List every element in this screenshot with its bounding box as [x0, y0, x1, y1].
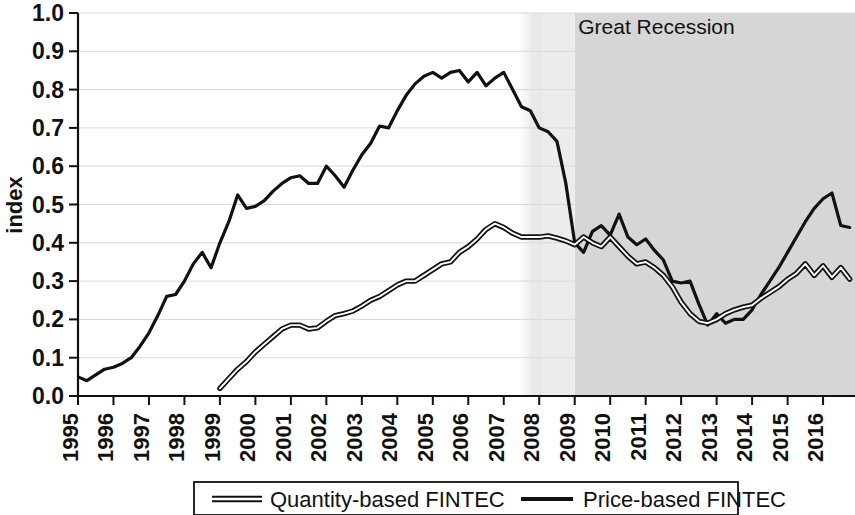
x-axis-tick-label: 2001 — [271, 413, 296, 462]
y-axis-tick-label: 0.6 — [32, 153, 64, 179]
y-axis-tick-label: 0.5 — [32, 192, 64, 218]
x-axis-tick-label: 2015 — [768, 413, 793, 462]
great-recession-annotation-label: Great Recession — [578, 15, 734, 38]
x-axis-tick-label: 1997 — [129, 413, 154, 462]
y-axis-tick-label: 0.2 — [32, 306, 64, 332]
x-axis-tick-label: 2004 — [377, 412, 402, 462]
x-axis-tick-label: 1996 — [93, 413, 118, 462]
legend-label-quantity-based-fintec: Quantity-based FINTEC — [270, 487, 505, 512]
x-axis-tick-label: 2003 — [342, 413, 367, 462]
x-axis-tick-label: 1998 — [164, 413, 189, 462]
x-axis-tick-label: 2012 — [661, 413, 686, 462]
chart-container: 0.00.10.20.30.40.50.60.70.80.91.0 199519… — [0, 0, 855, 515]
y-axis-tick-label: 0.9 — [32, 38, 64, 64]
legend-label-price-based-fintec: Price-based FINTEC — [583, 487, 786, 512]
x-axis-tick-label: 2010 — [590, 413, 615, 462]
x-axis-tick-label: 2016 — [803, 413, 828, 462]
chart-legend: Quantity-based FINTEC Price-based FINTEC — [194, 482, 786, 515]
y-axis-tick-label: 0.8 — [32, 77, 64, 103]
x-axis-tick-label: 2000 — [235, 413, 260, 462]
y-axis-tick-label: 1.0 — [32, 0, 64, 26]
y-axis-tick-label: 0.1 — [32, 345, 64, 371]
x-axis-tick-label: 1999 — [200, 413, 225, 462]
x-axis-tick-label: 1995 — [58, 413, 83, 462]
x-axis-tick-label: 2013 — [697, 413, 722, 462]
x-axis-tick-label: 2008 — [519, 413, 544, 462]
y-axis-tick-label: 0.3 — [32, 268, 64, 294]
y-axis-tick-label: 0.7 — [32, 115, 64, 141]
y-axis-tick-label: 0.4 — [32, 230, 64, 256]
fintec-index-line-chart: 0.00.10.20.30.40.50.60.70.80.91.0 199519… — [0, 0, 855, 515]
y-axis-tick-label: 0.0 — [32, 383, 64, 409]
x-axis-tick-label: 2007 — [484, 413, 509, 462]
x-axis-tick-label: 2005 — [413, 413, 438, 462]
x-axis-tick-label: 2006 — [448, 413, 473, 462]
x-axis-tick-label: 2002 — [306, 413, 331, 462]
y-axis-title: index — [2, 176, 27, 234]
x-axis-tick-label: 2009 — [555, 413, 580, 462]
x-axis-tick-label: 2011 — [626, 413, 651, 461]
x-axis-tick-label: 2014 — [732, 412, 757, 462]
